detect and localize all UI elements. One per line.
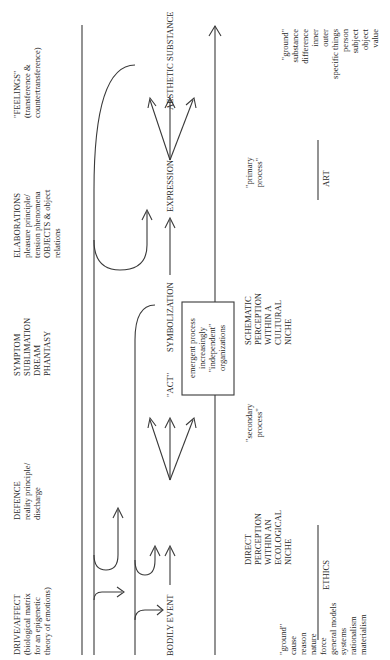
label-ethics: ETHICS: [321, 560, 331, 590]
heading-elaborations: ELABORATIONS pleasure principle/ tension…: [12, 190, 62, 258]
heading-defence: DEFENCE reality principle/ discharge: [12, 463, 42, 520]
secondary-process: "secondary process": [244, 404, 264, 442]
heading-symptom: SYMPTOM SUBLIMATION DREAM PHANTASY: [12, 318, 52, 376]
label-symbolization: SYMBOLIZATION: [165, 282, 175, 352]
list-left-ground: "ground" cause reason nature force gener…: [278, 603, 368, 655]
heading-feelings: "FEELINGS" (transference & countertransf…: [12, 47, 42, 118]
direct-perception: DIRECT PERCEPTION WITHIN AN ECOLOGICAL N…: [243, 510, 293, 565]
schematic-perception: SCHEMATIC PERCEPTION WITHIN A CULTURAL N…: [243, 293, 293, 345]
label-aesthetic-substance: AESTHETIC SUBSTANCE: [165, 12, 175, 110]
label-art: ART: [321, 170, 331, 187]
label-expression: EXPRESSION: [165, 160, 175, 212]
heading-drive-affect: DRIVE/AFFECT (biological matrix for an e…: [12, 587, 52, 655]
list-right-ground: "ground" substance difference inner oute…: [280, 29, 380, 95]
label-bodily-event: BODILY EVENT: [165, 594, 175, 656]
label-act: "ACT": [165, 373, 175, 397]
emergent-process-box: emergent process increasingly "independe…: [187, 305, 227, 391]
primary-process: "primary process": [244, 157, 264, 188]
